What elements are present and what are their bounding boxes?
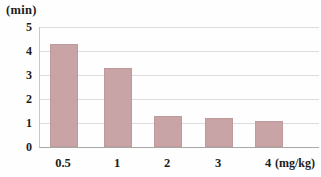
- y-axis-tick-label: 4: [6, 43, 32, 59]
- x-axis-unit-label: (mg/kg): [275, 155, 315, 171]
- y-axis-tick-label: 5: [6, 19, 32, 35]
- bar: [205, 118, 233, 147]
- bar: [104, 68, 132, 147]
- bar: [255, 121, 283, 147]
- bar-chart: (min) 012345 0.51234 (mg/kg): [0, 0, 321, 177]
- y-axis-tick-label: 0: [6, 139, 32, 155]
- y-axis-tick-label: 3: [6, 67, 32, 83]
- x-axis-tick-label: 3: [198, 155, 238, 171]
- y-axis-tick-label: 2: [6, 91, 32, 107]
- plot-area: [39, 27, 319, 148]
- gridline: [40, 27, 319, 28]
- x-axis-tick-label: 0.5: [43, 155, 83, 171]
- bar: [50, 44, 78, 147]
- gridline: [40, 75, 319, 76]
- y-axis-tick-label: 1: [6, 115, 32, 131]
- x-axis-tick-label: 1: [97, 155, 137, 171]
- y-axis-unit-label: (min): [6, 3, 37, 18]
- gridline: [40, 51, 319, 52]
- x-axis-tick-label: 2: [147, 155, 187, 171]
- bar: [154, 116, 182, 147]
- gridline: [40, 99, 319, 100]
